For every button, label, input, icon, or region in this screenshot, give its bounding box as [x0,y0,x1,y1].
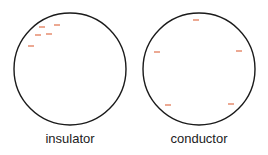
conductor-sphere [143,13,255,125]
conductor-circle [143,13,255,125]
conductor-label: conductor [144,131,254,146]
insulator-circle [14,13,126,125]
insulator-label: insulator [15,131,125,146]
insulator-sphere [14,13,126,125]
